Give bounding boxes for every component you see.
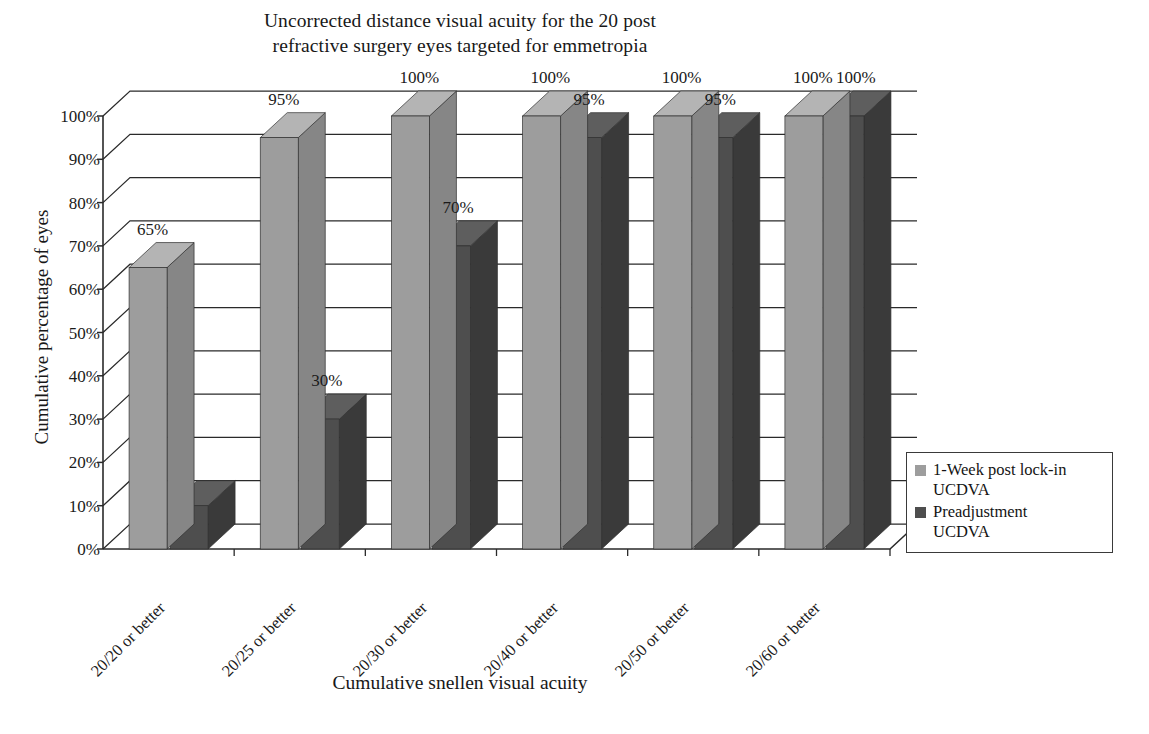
x-axis-tick-label: 20/20 or better [86, 598, 169, 681]
legend-label-line2: UCDVA [933, 480, 990, 499]
x-axis-tick-label: 20/40 or better [480, 598, 563, 681]
x-axis-tick-label: 20/50 or better [611, 598, 694, 681]
chart-container: Uncorrected distance visual acuity for t… [0, 0, 1149, 734]
legend-label: Preadjustment UCDVA [933, 502, 1027, 542]
legend-item[interactable]: Preadjustment UCDVA [915, 502, 1106, 542]
x-axis-tick-label: 20/25 or better [218, 598, 301, 681]
legend-label: 1-Week post lock-in UCDVA [933, 460, 1066, 500]
legend-swatch-icon [915, 507, 926, 518]
chart-legend: 1-Week post lock-in UCDVA Preadjustment … [906, 452, 1113, 553]
legend-label-line2: UCDVA [933, 522, 990, 541]
legend-label-line1: 1-Week post lock-in [933, 460, 1066, 479]
x-axis-tick-label: 20/60 or better [742, 598, 825, 681]
x-axis-tick-labels: 20/20 or better20/25 or better20/30 or b… [0, 0, 1149, 734]
legend-item[interactable]: 1-Week post lock-in UCDVA [915, 460, 1106, 500]
x-axis-tick-label: 20/30 or better [349, 598, 432, 681]
legend-label-line1: Preadjustment [933, 502, 1027, 521]
legend-swatch-icon [915, 465, 926, 476]
